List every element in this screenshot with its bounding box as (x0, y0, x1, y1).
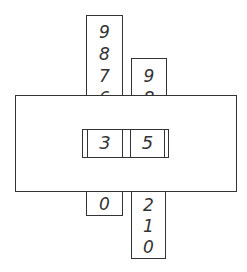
digit: 9 (132, 68, 166, 85)
left-digit-strip-top: 9 8 7 6 (86, 15, 123, 97)
digit: 2 (132, 197, 165, 214)
digit: 0 (87, 196, 122, 213)
counter-window: 3 5 (82, 129, 169, 158)
strip-edge-line (164, 130, 165, 157)
strip-edge-line (122, 130, 123, 157)
digit: 7 (87, 68, 122, 85)
digit: 8 (87, 46, 122, 63)
digit: 9 (87, 24, 122, 41)
digit: 1 (132, 218, 165, 235)
right-digit-strip-bottom: 2 1 0 (131, 190, 166, 259)
right-digit-strip-top: 9 8 (131, 58, 167, 97)
tens-digit: 3 (88, 133, 122, 153)
digit: 0 (132, 239, 165, 256)
ones-digit: 5 (131, 133, 164, 153)
left-digit-strip-bottom: 0 (86, 190, 123, 216)
